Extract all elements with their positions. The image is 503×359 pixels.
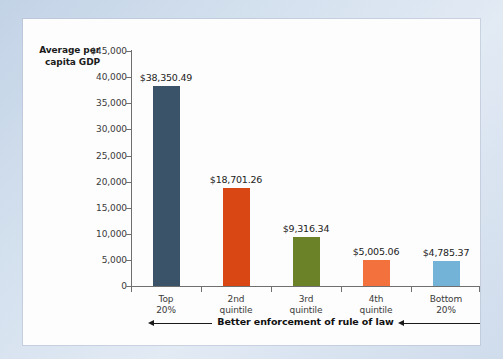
bar-value-label: $38,350.49 — [116, 72, 216, 83]
y-tick-label: 35,000 — [9, 99, 127, 108]
y-tick-label: 15,000 — [9, 204, 127, 213]
y-axis-ticks: $45,000 40,000 35,000 30,000 25,000 20,0… — [0, 0, 127, 359]
y-axis-line — [131, 50, 132, 287]
annotation-label: Better enforcement of rule of law — [217, 316, 393, 327]
bar-top-20[interactable] — [153, 86, 180, 286]
x-category-line2: quintile — [201, 305, 271, 316]
y-tick-label: 0 — [9, 282, 127, 291]
x-tick-mark — [131, 287, 132, 292]
annotation-line-left — [154, 323, 212, 324]
x-category-label-top-20: Top 20% — [131, 294, 201, 316]
x-category-line2: 20% — [131, 305, 201, 316]
y-tick-label: 10,000 — [9, 230, 127, 239]
x-tick-mark — [411, 287, 412, 292]
x-category-label-bottom-20: Bottom 20% — [411, 294, 481, 316]
x-category-line1: Top — [131, 294, 201, 305]
x-category-label-3rd-quintile: 3rd quintile — [271, 294, 341, 316]
x-category-label-4th-quintile: 4th quintile — [341, 294, 411, 316]
bar-value-label: $9,316.34 — [256, 223, 356, 234]
x-tick-mark — [341, 287, 342, 292]
y-tick-label: 30,000 — [9, 125, 127, 134]
x-category-label-2nd-quintile: 2nd quintile — [201, 294, 271, 316]
x-category-line2: quintile — [271, 305, 341, 316]
y-tick-label: 20,000 — [9, 178, 127, 187]
x-tick-mark — [271, 287, 272, 292]
x-category-line2: 20% — [411, 305, 481, 316]
y-tick-label: $45,000 — [9, 47, 127, 56]
y-tick-label: 40,000 — [9, 73, 127, 82]
slide-background: Average per capita GDP $45,000 40,000 35… — [0, 0, 503, 359]
rule-of-law-annotation: Better enforcement of rule of law — [131, 316, 480, 332]
y-tick-label: 5,000 — [9, 256, 127, 265]
x-category-line1: Bottom — [411, 294, 481, 305]
bar-chart: Average per capita GDP $45,000 40,000 35… — [0, 0, 503, 359]
x-category-line1: 4th — [341, 294, 411, 305]
bar-4th-quintile[interactable] — [363, 260, 390, 286]
x-tick-mark — [479, 287, 480, 292]
x-category-line1: 3rd — [271, 294, 341, 305]
x-category-line2: quintile — [341, 305, 411, 316]
annotation-line-right — [404, 323, 481, 324]
x-axis-line — [131, 286, 480, 287]
bar-2nd-quintile[interactable] — [223, 188, 250, 286]
bar-value-label: $4,785.37 — [396, 247, 496, 258]
x-tick-mark — [201, 287, 202, 292]
bar-3rd-quintile[interactable] — [293, 237, 320, 286]
bar-value-label: $18,701.26 — [186, 174, 286, 185]
y-tick-label: 25,000 — [9, 152, 127, 161]
x-category-line1: 2nd — [201, 294, 271, 305]
bar-bottom-20[interactable] — [433, 261, 460, 286]
